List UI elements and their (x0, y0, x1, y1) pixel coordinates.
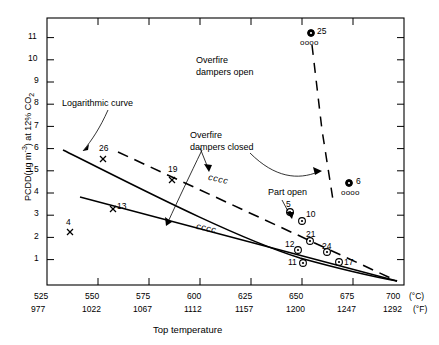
datapoint-26 (100, 156, 106, 162)
dampers-closed-arrowhead-b (165, 217, 172, 226)
y-tick-10: 10 (28, 54, 37, 63)
datapoint-label-12: 12 (285, 240, 294, 249)
x-tick-f-1292: 1292 (383, 305, 402, 314)
annotation-dampers-open-line2: dampers open (196, 68, 254, 77)
x-tick-c-700: 700 (386, 292, 400, 301)
x-tick-c-600: 600 (187, 292, 201, 301)
x-tick-c-550: 550 (85, 292, 99, 301)
datapoint-label-6: 6 (356, 177, 361, 186)
annotation-logarithmic-curve: Logarithmic curve (62, 99, 133, 108)
datapoint-6 (346, 180, 353, 187)
chart-figure: 11 10 9 8 7 6 5 4 3 2 1 PCDD(µg m-3) at … (0, 0, 439, 345)
dampers-closed-lower-line (80, 197, 397, 281)
y-axis-title-subscript: 2 (28, 93, 35, 97)
y-axis-title-exponent: -3 (21, 146, 28, 152)
x-tick-c-625: 625 (238, 292, 252, 301)
datapoint-label-11: 11 (288, 258, 297, 267)
datapoint-label-19: 19 (168, 165, 177, 174)
y-tick-11: 11 (28, 32, 37, 41)
datapoint-label-10: 10 (306, 210, 315, 219)
datapoint-label-5: 5 (286, 200, 291, 209)
y-tick-1: 1 (34, 254, 39, 263)
datapoint-label-24: 24 (322, 242, 331, 251)
x-tick-f-1157: 1157 (235, 305, 253, 314)
x-tick-c-525: 525 (34, 292, 48, 301)
marker-group-filled-circle (308, 30, 353, 187)
dampers-closed-leader-b (168, 150, 202, 222)
datapoint-label-13: 13 (117, 202, 126, 211)
x-axis-ticks-bottom (98, 278, 353, 285)
x-tick-f-977: 977 (31, 305, 45, 314)
annotation-dampers-closed-line2: dampers closed (190, 143, 254, 152)
y-axis-title: PCDD(µg m-3) at 12% CO2 (21, 72, 35, 222)
datapoint-label-25: 25 (317, 27, 326, 36)
dampers-closed-arrowhead-a (204, 164, 212, 172)
x-tick-f-1067: 1067 (133, 305, 152, 314)
datapoint-10 (299, 218, 306, 225)
datapoint-11 (300, 260, 307, 267)
datapoint-label-17: 17 (344, 258, 353, 267)
y-axis-title-tail: ) at 12% CO (23, 97, 33, 147)
x-tick-f-1200: 1200 (286, 305, 305, 314)
marker-group-cross (67, 156, 175, 235)
dampers-open-arrowhead (313, 167, 322, 175)
datapoint-4 (67, 229, 73, 235)
dampers-open-dashed-line (312, 45, 333, 200)
annotation-dampers-open-line1: Overfire (196, 56, 228, 65)
dampers-closed-dashed-line (118, 152, 397, 281)
x-tick-f-1112: 1112 (184, 305, 202, 314)
x-tick-f-1247: 1247 (337, 305, 356, 314)
x-tick-f-1022: 1022 (82, 305, 101, 314)
annotation-part-open: Part open (268, 188, 307, 197)
y-axis-title-main: PCDD(µg m (23, 152, 33, 201)
datapoint-19 (169, 177, 175, 183)
datapoint-label-21: 21 (306, 230, 315, 239)
y-tick-2: 2 (34, 232, 39, 241)
datapoint-label-26: 26 (99, 144, 108, 153)
datapoint-25 (308, 30, 315, 37)
datapoint-13 (110, 206, 116, 212)
plot-canvas (0, 0, 439, 345)
x-tick-c-650: 650 (289, 292, 303, 301)
x-axis-title: Top temperature (153, 325, 222, 335)
annotation-dampers-closed-line1: Overfire (190, 131, 222, 140)
datapoint-17 (336, 259, 343, 266)
y-axis-ticks-right (397, 38, 404, 260)
y-axis-ticks (47, 38, 54, 260)
datapoint-sublabel-6: oooo (341, 189, 360, 197)
x-axis-ticks-top (98, 18, 353, 25)
datapoint-12 (295, 247, 302, 254)
datapoint-sublabel-25: oooo (300, 39, 319, 47)
x-unit-fahrenheit: (°F) (413, 305, 427, 314)
x-tick-c-575: 575 (136, 292, 150, 301)
x-unit-celsius: (°C) (409, 292, 424, 301)
datapoint-label-4: 4 (66, 218, 71, 227)
dampers-open-leader (250, 153, 318, 176)
x-tick-c-675: 675 (340, 292, 354, 301)
